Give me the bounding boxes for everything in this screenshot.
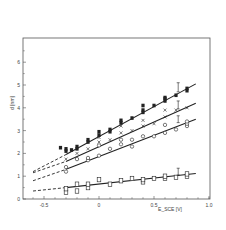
open-square-marker <box>75 189 79 193</box>
x-tick-label: -0.5 <box>40 202 49 208</box>
cross-marker <box>142 119 145 122</box>
axis-ticks: 0123456-0.500.51.0 <box>17 51 212 208</box>
chart: 0123456-0.500.51.0 d [nm] E_SCE [V] <box>0 0 226 230</box>
open-circle-marker <box>130 138 133 141</box>
filled-square-marker <box>70 148 73 152</box>
open-square-marker <box>185 172 189 176</box>
filled-square-marker <box>119 119 122 123</box>
extrapolation-filled-squares <box>33 155 66 172</box>
fit-lines <box>33 84 196 191</box>
open-circle-marker <box>152 135 155 138</box>
x-axis-label: E_SCE [V] <box>158 206 183 212</box>
filled-square-marker <box>108 128 111 132</box>
y-tick-label: 5 <box>17 82 20 88</box>
y-tick-label: 3 <box>17 128 20 134</box>
open-square-marker <box>174 175 178 179</box>
open-square-marker <box>163 174 167 178</box>
filled-square-marker <box>75 145 78 149</box>
filled-square-marker <box>86 138 89 142</box>
open-circle-marker <box>130 145 133 148</box>
cross-marker <box>164 109 167 112</box>
open-circle-marker <box>163 123 166 126</box>
filled-square-marker <box>130 116 133 120</box>
open-circle-marker <box>119 143 122 146</box>
extrapolation-open-squares <box>33 188 66 191</box>
open-square-marker <box>64 187 68 191</box>
filled-square-marker <box>185 87 188 91</box>
extrapolation-crosses <box>33 161 66 172</box>
filled-square-marker <box>64 149 67 153</box>
filled-square-marker <box>141 104 144 108</box>
y-tick-label: 2 <box>17 150 20 156</box>
open-circle-marker <box>86 156 89 159</box>
filled-square-marker <box>141 108 144 112</box>
filled-square-marker <box>97 130 100 134</box>
open-square-marker <box>130 176 134 180</box>
cross-marker <box>87 147 90 150</box>
y-tick-label: 1 <box>17 173 20 179</box>
open-square-marker <box>86 182 90 186</box>
open-circle-marker <box>119 138 122 141</box>
cross-marker <box>109 138 112 141</box>
open-circle-marker <box>97 144 100 147</box>
open-circle-marker <box>75 157 78 160</box>
cross-marker <box>65 158 68 161</box>
open-circle-marker <box>108 147 111 150</box>
open-circle-marker <box>185 120 188 123</box>
y-axis-label: d [nm] <box>9 95 15 110</box>
cross-marker <box>153 122 156 125</box>
y-tick-label: 6 <box>17 59 20 65</box>
open-circle-marker <box>163 131 166 134</box>
filled-square-marker <box>174 93 177 97</box>
open-circle-marker <box>174 128 177 131</box>
data-points <box>59 87 189 195</box>
open-square-marker <box>75 182 79 186</box>
x-tick-label: 0.5 <box>151 202 158 208</box>
open-circle-marker <box>64 170 67 173</box>
filled-square-marker <box>59 146 62 150</box>
open-square-marker <box>119 179 123 183</box>
y-tick-label: 0 <box>17 196 20 202</box>
open-circle-marker <box>141 135 144 138</box>
open-square-marker <box>141 177 145 181</box>
x-tick-label: 0 <box>98 202 101 208</box>
open-square-marker <box>108 182 112 186</box>
cross-marker <box>120 131 123 134</box>
open-circle-marker <box>97 154 100 157</box>
fit-line-crosses <box>66 103 196 161</box>
x-tick-label: 1.0 <box>206 202 213 208</box>
cross-marker <box>98 141 101 144</box>
y-tick-label: 4 <box>17 105 20 111</box>
open-square-marker <box>97 177 101 181</box>
open-circle-marker <box>64 165 67 168</box>
open-square-marker <box>152 176 156 180</box>
filled-square-marker <box>152 104 155 108</box>
filled-square-marker <box>163 96 166 100</box>
cross-marker <box>76 152 79 155</box>
